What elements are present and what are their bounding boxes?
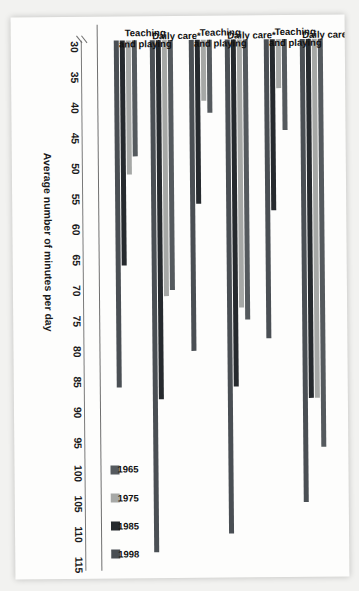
legend-item: 1998 xyxy=(111,543,134,564)
legend-label: 1998 xyxy=(118,548,139,559)
axis-tick-80: 80 xyxy=(71,346,83,357)
axis-tick-105: 105 xyxy=(73,495,85,512)
axis-tick-65: 65 xyxy=(71,254,83,265)
axis-tick-30: 30 xyxy=(69,41,81,52)
chart-legend: 1965197519851998 xyxy=(110,459,134,565)
legend-item: 1985 xyxy=(111,515,134,536)
axis-tick-115: 115 xyxy=(73,557,85,573)
axis-tick-50: 50 xyxy=(70,163,82,174)
category-label: Teachingand playing xyxy=(269,27,322,48)
category-label: Teachingand playing xyxy=(194,27,247,48)
legend-label: 1975 xyxy=(118,492,139,503)
axis-tick-70: 70 xyxy=(71,285,83,296)
chart-page: Daily care*Teachingand playingDaily care… xyxy=(0,0,359,591)
axis-tick-60: 60 xyxy=(70,224,82,235)
axis-tick-45: 45 xyxy=(70,133,82,144)
axis-title: Average number of minutes per day xyxy=(42,153,56,332)
axis-tick-95: 95 xyxy=(72,437,84,448)
axis-tick-100: 100 xyxy=(72,465,84,482)
axis-tick-110: 110 xyxy=(73,526,85,542)
chart-card: Daily care*Teachingand playingDaily care… xyxy=(11,15,350,580)
axis-tick-55: 55 xyxy=(70,194,82,205)
axis-tick-40: 40 xyxy=(69,102,81,113)
rotated-chart-host: Daily care*Teachingand playingDaily care… xyxy=(11,15,350,580)
category-label: Teachingand playing xyxy=(119,28,172,49)
axis-tick-85: 85 xyxy=(72,376,84,387)
chart-plot-area: Daily care*Teachingand playingDaily care… xyxy=(11,15,350,580)
legend-label: 1985 xyxy=(118,520,139,531)
axis-tick-75: 75 xyxy=(71,315,83,326)
legend-item: 1965 xyxy=(110,459,133,480)
axis-tick-35: 35 xyxy=(69,72,81,83)
legend-item: 1975 xyxy=(111,487,134,508)
legend-label: 1965 xyxy=(117,464,138,475)
axis-tick-90: 90 xyxy=(72,407,84,418)
